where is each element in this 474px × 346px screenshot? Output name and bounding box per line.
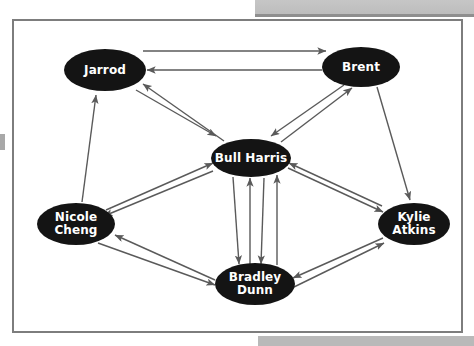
edge-bradley-dunn-to-nicole-cheng [115, 235, 215, 280]
edge-nicole-cheng-to-bradley-dunn [98, 243, 215, 285]
node-label-bull-harris: Bull Harris [211, 152, 291, 165]
node-bull-harris[interactable]: Bull Harris [211, 139, 291, 177]
node-kylie-atkins[interactable]: Kylie Atkins [378, 203, 450, 245]
node-label-bradley-dunn: Bradley Dunn [215, 271, 295, 296]
node-label-jarrod: Jarrod [64, 64, 146, 77]
node-label-brent: Brent [322, 61, 400, 74]
node-label-kylie-atkins: Kylie Atkins [378, 211, 450, 236]
edge-bull-harris-to-jarrod [143, 84, 224, 141]
edge-bull-harris-to-kylie-atkins [288, 168, 383, 212]
edge-kylie-atkins-to-bradley-dunn [293, 238, 383, 278]
diagram-stage: JarrodBrentBull HarrisNicole ChengBradle… [0, 0, 474, 346]
edge-bull-harris-to-bradley-dunn [233, 177, 239, 264]
edge-bull-harris-to-nicole-cheng [104, 171, 213, 216]
edge-kylie-atkins-to-bull-harris [289, 163, 382, 206]
edge-bull-harris-to-bradley-dunn [261, 178, 264, 264]
node-nicole-cheng[interactable]: Nicole Cheng [37, 203, 115, 245]
node-label-nicole-cheng: Nicole Cheng [37, 211, 115, 236]
node-bradley-dunn[interactable]: Bradley Dunn [215, 263, 295, 305]
node-brent[interactable]: Brent [322, 47, 400, 87]
edge-bull-harris-to-brent [281, 88, 352, 142]
edge-brent-to-kylie-atkins [377, 87, 410, 200]
edge-jarrod-to-bull-harris [136, 90, 216, 136]
edge-bradley-dunn-to-kylie-atkins [294, 243, 384, 287]
edge-nicole-cheng-to-jarrod [82, 95, 96, 202]
node-jarrod[interactable]: Jarrod [64, 49, 146, 91]
edge-nicole-cheng-to-bull-harris [106, 163, 213, 210]
edge-brent-to-bull-harris [271, 85, 344, 136]
